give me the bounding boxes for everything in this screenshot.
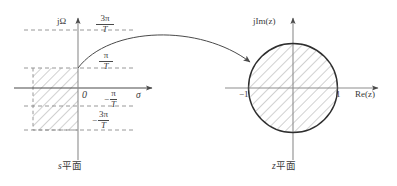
tick-denominator: T xyxy=(99,62,113,71)
tick-numerator: π xyxy=(110,89,117,98)
s-plane-tick-label-positive-3pi-over-T: 3π T xyxy=(96,14,114,35)
s-plane-hatched-region xyxy=(33,68,78,130)
fraction: π T xyxy=(110,89,117,110)
z-plane-title-cjk: 平面 xyxy=(276,160,296,171)
z-plane-tick-label-plus-one: 1 xyxy=(336,90,341,99)
s-plane-origin-label: 0 xyxy=(82,90,87,100)
s-plane-jomega-axis-label: jΩ xyxy=(57,17,66,26)
s-plane-title: s平面 xyxy=(58,158,82,172)
tick-denominator: T xyxy=(98,121,109,130)
s-plane-title-cjk: 平面 xyxy=(62,160,82,171)
minus-sign: − xyxy=(104,94,109,104)
z-plane-unit-disk-hatched-region xyxy=(249,44,338,133)
s-plane-tick-label-negative-3pi-over-T: − 3π T xyxy=(92,110,109,131)
tick-numerator: 3π xyxy=(96,14,114,23)
s-plane-sigma-axis-label: σ xyxy=(136,90,141,100)
z-plane-title: z平面 xyxy=(272,158,296,172)
z-plane-real-axis-label: Re(z) xyxy=(355,90,375,99)
s-plane-tick-label-negative-pi-over-T: − π T xyxy=(104,89,117,110)
z-plane-imaginary-axis-label: jIm(z) xyxy=(253,17,276,26)
minus-sign: − xyxy=(92,115,97,125)
figure-s-plane-to-z-plane-mapping: jΩ 3π T π T 0 − π T − 3π T σ s平面 jIm(z) … xyxy=(0,0,397,186)
fraction: 3π T xyxy=(98,110,109,131)
s-plane-tick-label-positive-pi-over-T: π T xyxy=(99,51,113,72)
tick-numerator: π xyxy=(99,51,113,60)
z-plane-tick-label-minus-one: −1 xyxy=(239,90,249,99)
tick-numerator: 3π xyxy=(98,110,109,119)
tick-denominator: T xyxy=(110,100,117,109)
tick-denominator: T xyxy=(96,25,114,34)
